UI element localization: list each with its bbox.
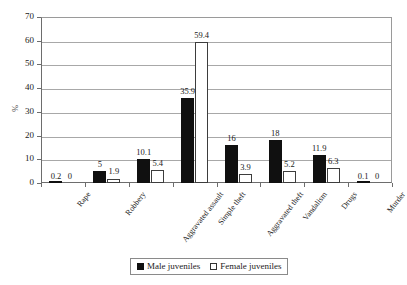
x-tick-mark bbox=[392, 183, 393, 187]
legend-swatch-female bbox=[210, 263, 217, 270]
x-tick-mark bbox=[348, 183, 349, 187]
x-axis-category-label: Rape bbox=[75, 190, 92, 208]
x-axis-category-label: Vandalism bbox=[301, 190, 329, 222]
legend-item: Female juveniles bbox=[210, 261, 281, 271]
chart-legend: Male juvenilesFemale juveniles bbox=[130, 258, 288, 275]
x-tick-mark bbox=[85, 183, 86, 187]
x-axis-category-label: Robbery bbox=[123, 190, 147, 217]
x-tick-mark bbox=[173, 183, 174, 187]
x-axis-category-label: Murder bbox=[385, 190, 407, 214]
x-tick-mark bbox=[41, 183, 42, 187]
x-axis-category-label: Aggravated theft bbox=[265, 190, 305, 238]
x-tick-mark bbox=[217, 183, 218, 187]
x-tick-mark bbox=[260, 183, 261, 187]
x-tick-mark bbox=[304, 183, 305, 187]
legend-item: Male juveniles bbox=[137, 261, 200, 271]
legend-label: Male juveniles bbox=[147, 261, 200, 271]
x-axis-category-label: Drugs bbox=[340, 190, 359, 211]
legend-label: Female juveniles bbox=[220, 261, 281, 271]
x-tick-mark bbox=[129, 183, 130, 187]
legend-swatch-male bbox=[137, 263, 144, 270]
